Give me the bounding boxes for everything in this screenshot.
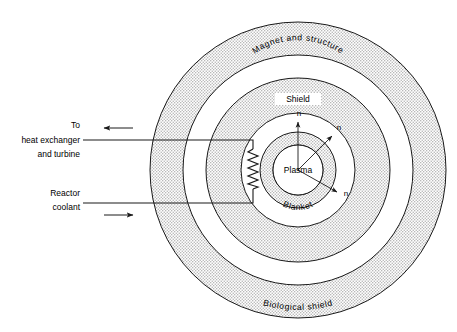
neutron-label-lower-right: n <box>344 189 348 198</box>
inlet-label-line2: coolant <box>53 202 81 212</box>
neutron-label-upper-right: n <box>337 123 341 132</box>
outlet-label-line2: heat exchanger <box>21 135 80 145</box>
outlet-label-line3: and turbine <box>37 149 80 159</box>
reactor-cross-section-diagram: Magnet and structure Shield Plasma Blank… <box>0 0 457 332</box>
label-plasma: Plasma <box>284 165 313 175</box>
figure-canvas: Magnet and structure Shield Plasma Blank… <box>0 0 457 332</box>
callout-to-heat-exchanger: To heat exchanger and turbine <box>21 120 80 159</box>
inlet-label-line1: Reactor <box>50 188 80 198</box>
callout-reactor-coolant: Reactor coolant <box>50 188 80 212</box>
outlet-label-line1: To <box>71 120 80 130</box>
label-shield: Shield <box>286 94 310 104</box>
neutron-label-up: n <box>297 109 301 118</box>
heat-exchanger-coil <box>248 149 258 189</box>
